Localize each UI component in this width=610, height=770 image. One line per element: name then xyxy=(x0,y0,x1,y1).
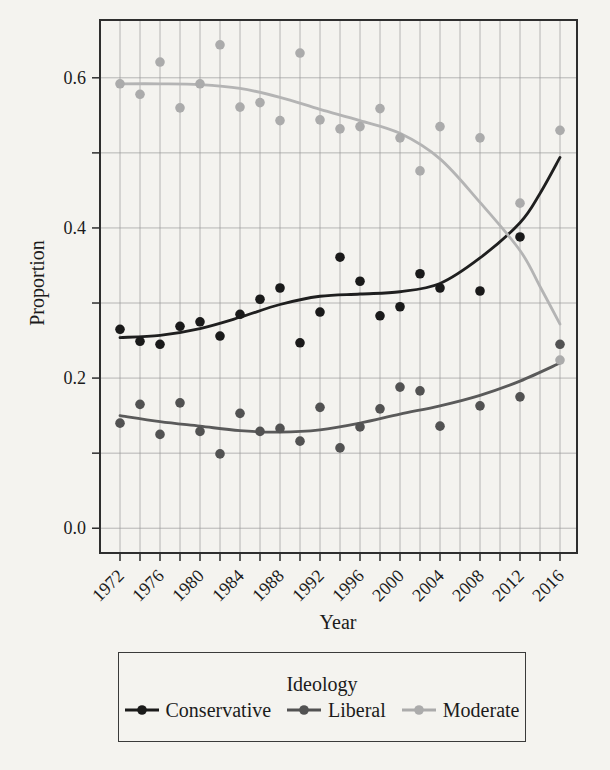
axis-ticks xyxy=(92,78,560,561)
legend-entries: ConservativeLiberalModerate xyxy=(125,700,520,720)
moderate-data-point xyxy=(115,79,125,89)
moderate-data-point xyxy=(235,102,245,112)
moderate-data-point xyxy=(395,133,405,143)
conservative-data-point xyxy=(395,302,405,312)
liberal-data-point xyxy=(135,400,145,410)
y-axis-title: Proportion xyxy=(26,240,49,326)
conservative-data-point xyxy=(295,338,305,348)
x-tick-label: 2008 xyxy=(448,566,488,606)
y-tick-label: 0.0 xyxy=(64,518,87,538)
liberal-data-point xyxy=(295,436,305,446)
conservative-data-point xyxy=(375,311,385,321)
liberal-data-point xyxy=(175,398,185,408)
conservative-data-point xyxy=(335,252,345,262)
liberal-data-point xyxy=(335,443,345,453)
legend-entry-moderate: Moderate xyxy=(402,700,520,720)
conservative-data-point xyxy=(415,269,425,279)
moderate-data-point xyxy=(555,126,565,136)
liberal-data-point xyxy=(255,427,265,437)
legend-entry-conservative: Conservative xyxy=(125,700,272,720)
moderate-data-point xyxy=(355,122,365,132)
liberal-data-point xyxy=(195,427,205,437)
x-tick-label: 1988 xyxy=(248,566,288,606)
conservative-legend-key-icon xyxy=(125,703,159,717)
moderate-data-point xyxy=(175,103,185,113)
conservative-data-point xyxy=(115,324,125,334)
conservative-data-point xyxy=(275,283,285,293)
conservative-data-point xyxy=(235,309,245,319)
conservative-data-point xyxy=(135,337,145,347)
y-tick-labels: 0.00.20.40.6 xyxy=(64,68,87,538)
liberal-data-point xyxy=(275,424,285,434)
moderate-data-point xyxy=(315,115,325,125)
moderate-data-point xyxy=(415,166,425,176)
liberal-data-point xyxy=(155,430,165,440)
moderate-data-point xyxy=(435,122,445,132)
liberal-data-point xyxy=(515,392,525,402)
liberal-data-point xyxy=(315,403,325,413)
series-conservative xyxy=(115,157,560,349)
legend-entry-label: Liberal xyxy=(328,700,386,720)
x-tick-label: 2016 xyxy=(528,566,568,606)
plot-border xyxy=(100,20,577,553)
scanned-book-page: 1972197619801984198819921996200020042008… xyxy=(0,0,610,770)
moderate-data-point xyxy=(295,48,305,58)
x-tick-label: 1976 xyxy=(128,566,168,606)
legend-box: Ideology ConservativeLiberalModerate xyxy=(118,652,526,742)
moderate-data-point xyxy=(375,104,385,114)
legend-title: Ideology xyxy=(286,674,357,694)
moderate-data-point xyxy=(215,40,225,50)
moderate-legend-key-icon xyxy=(402,703,436,717)
conservative-data-point xyxy=(255,294,265,304)
conservative-data-point xyxy=(215,331,225,341)
conservative-data-point xyxy=(435,283,445,293)
moderate-data-point xyxy=(275,116,285,126)
legend-entry-label: Conservative xyxy=(166,700,272,720)
moderate-data-point xyxy=(335,124,345,134)
x-axis-title: Year xyxy=(320,611,357,633)
conservative-data-point xyxy=(315,307,325,317)
x-tick-label: 1996 xyxy=(328,566,368,606)
liberal-data-point xyxy=(555,340,565,350)
moderate-data-point xyxy=(135,90,145,100)
moderate-data-point xyxy=(255,98,265,108)
x-tick-label: 1980 xyxy=(168,566,208,606)
y-tick-label: 0.4 xyxy=(64,218,87,238)
liberal-data-point xyxy=(215,449,225,459)
moderate-data-point xyxy=(555,355,565,365)
x-tick-label: 2000 xyxy=(368,566,408,606)
liberal-data-point xyxy=(415,386,425,396)
conservative-data-point xyxy=(155,340,165,350)
conservative-data-point xyxy=(515,232,525,242)
liberal-data-point xyxy=(435,421,445,431)
moderate-data-point xyxy=(195,79,205,89)
gridlines xyxy=(100,20,577,553)
legend-entry-liberal: Liberal xyxy=(287,700,386,720)
conservative-data-point xyxy=(355,276,365,286)
liberal-data-point xyxy=(235,409,245,419)
x-tick-labels: 1972197619801984198819921996200020042008… xyxy=(88,566,568,606)
liberal-data-point xyxy=(355,422,365,432)
liberal-data-point xyxy=(115,418,125,428)
y-tick-label: 0.6 xyxy=(64,68,87,88)
x-tick-label: 1992 xyxy=(288,566,328,606)
y-tick-label: 0.2 xyxy=(64,368,87,388)
x-tick-label: 1972 xyxy=(88,566,128,606)
conservative-data-point xyxy=(195,317,205,327)
moderate-data-point xyxy=(475,133,485,143)
conservative-data-point xyxy=(175,321,185,331)
conservative-data-point xyxy=(475,286,485,296)
ideology-proportion-chart: 1972197619801984198819921996200020042008… xyxy=(0,0,610,648)
liberal-legend-key-icon xyxy=(287,703,321,717)
liberal-data-point xyxy=(375,404,385,414)
x-tick-label: 2012 xyxy=(488,566,528,606)
liberal-data-point xyxy=(395,382,405,392)
liberal-data-point xyxy=(475,401,485,411)
x-tick-label: 2004 xyxy=(408,566,448,606)
x-tick-label: 1984 xyxy=(208,566,248,606)
moderate-data-point xyxy=(515,198,525,208)
legend-entry-label: Moderate xyxy=(443,700,520,720)
moderate-data-point xyxy=(155,57,165,67)
